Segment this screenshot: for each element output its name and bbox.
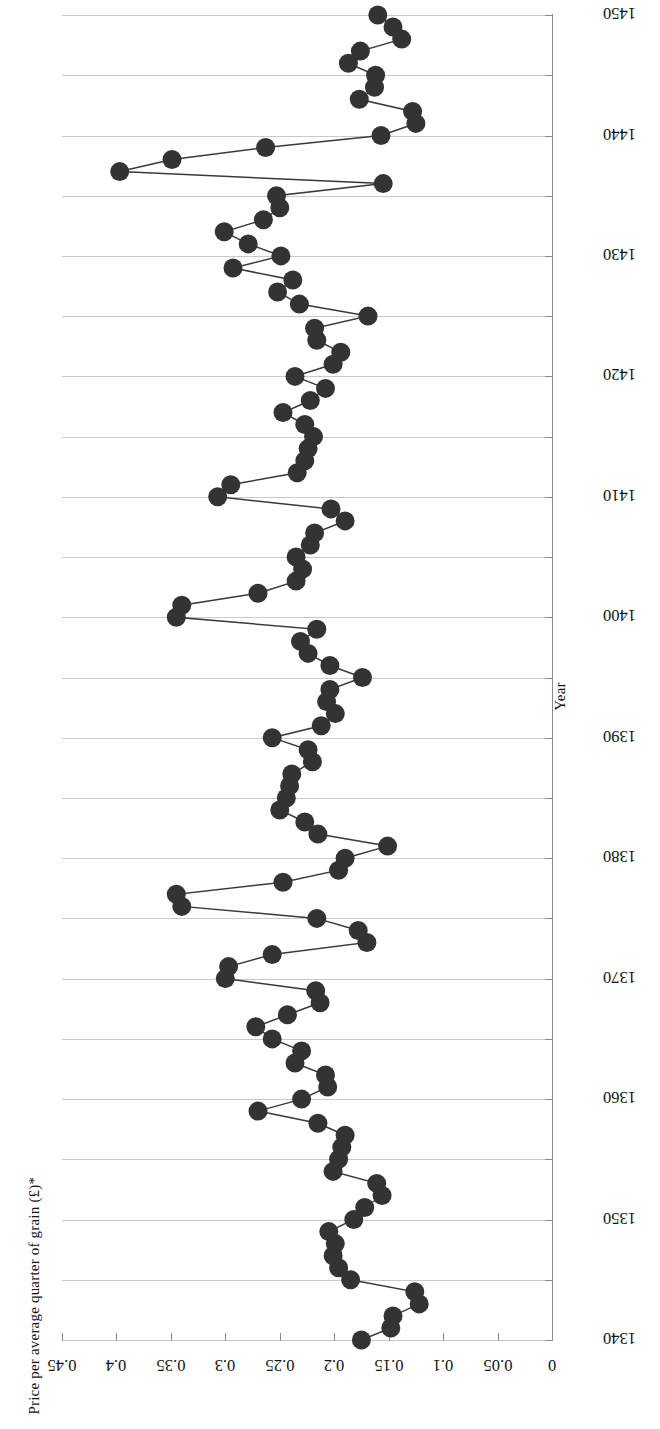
data-point-1439 (256, 138, 275, 157)
data-point-1402 (249, 584, 268, 603)
data-point-1432 (215, 222, 234, 241)
data-point-1440 (372, 126, 391, 145)
data-point-1387 (282, 764, 301, 783)
grain-price-chart-figure: Price per average quarter of grain (£)* … (0, 0, 660, 1429)
data-series-layer (0, 0, 660, 1429)
data-point-1367 (278, 1005, 297, 1024)
data-point-1420 (286, 367, 305, 386)
data-point-1424 (305, 319, 324, 338)
data-point-1377 (167, 885, 186, 904)
data-point-1426 (290, 295, 309, 314)
data-point-1427 (268, 283, 287, 302)
data-point-1429 (224, 259, 243, 278)
data-point-1381 (378, 837, 397, 856)
data-point-1340 (352, 1331, 371, 1350)
data-point-1418 (301, 391, 320, 410)
data-point-1407 (305, 524, 324, 543)
data-point-1342 (384, 1306, 403, 1325)
data-point-1437 (110, 162, 129, 181)
data-point-1417 (274, 403, 293, 422)
data-point-1358 (308, 1114, 327, 1133)
data-point-1359 (249, 1102, 268, 1121)
data-point-1360 (292, 1090, 311, 1109)
data-point-1433 (254, 210, 273, 229)
data-point-1443 (350, 90, 369, 109)
data-point-1369 (306, 981, 325, 1000)
data-point-1449 (384, 18, 403, 37)
data-point-1425 (359, 307, 378, 326)
data-point-1430 (271, 246, 290, 265)
data-point-1371 (219, 957, 238, 976)
data-point-1375 (307, 909, 326, 928)
data-point-1395 (353, 668, 372, 687)
data-point-1378 (274, 873, 293, 892)
data-point-1409 (322, 499, 341, 518)
data-point-1445 (366, 66, 385, 85)
data-point-1442 (403, 102, 422, 121)
data-point-1450 (368, 6, 387, 25)
data-point-1401 (172, 596, 191, 615)
data-point-1436 (374, 174, 393, 193)
data-point-1372 (263, 945, 282, 964)
data-point-1389 (299, 740, 318, 759)
data-point-1394 (320, 680, 339, 699)
data-point-1411 (221, 475, 240, 494)
data-point-1383 (295, 813, 314, 832)
data-point-1416 (295, 415, 314, 434)
data-point-1365 (263, 1029, 282, 1048)
data-point-1353 (367, 1174, 386, 1193)
data-point-1398 (291, 632, 310, 651)
data-point-1422 (331, 343, 350, 362)
data-point-1374 (349, 921, 368, 940)
data-point-1435 (267, 186, 286, 205)
data-point-1428 (283, 271, 302, 290)
data-point-1396 (320, 656, 339, 675)
data-point-1366 (246, 1017, 265, 1036)
data-point-1351 (355, 1198, 374, 1217)
data-point-1344 (405, 1282, 424, 1301)
data-point-1380 (336, 849, 355, 868)
data-point-1399 (307, 620, 326, 639)
data-point-1362 (316, 1066, 335, 1085)
data-point-1431 (239, 234, 258, 253)
data-point-1364 (292, 1041, 311, 1060)
data-point-1357 (336, 1126, 355, 1145)
data-point-1419 (316, 379, 335, 398)
data-point-1349 (319, 1222, 338, 1241)
data-point-1447 (351, 42, 370, 61)
data-point-1438 (163, 150, 182, 169)
data-point-1390 (263, 728, 282, 747)
